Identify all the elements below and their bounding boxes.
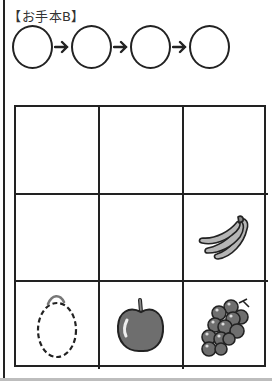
grid-cell-r2c2[interactable] [100,195,184,282]
grid-cell-r2c3[interactable] [184,195,268,282]
sequence-circle-2[interactable] [71,25,112,69]
grid-cell-r2c1[interactable] [16,195,100,282]
arrow-right-icon [54,39,70,55]
sequence-row [12,24,272,74]
arrow-right-icon [172,39,188,55]
page-title: 【お手本B】 [8,6,85,25]
grid-cell-r3c2[interactable] [100,282,184,369]
apple-icon [115,296,167,356]
grapes-icon [195,295,257,357]
sequence-circle-1[interactable] [12,25,53,69]
sequence-circle-3[interactable] [130,25,171,69]
banana-icon [196,213,256,263]
arrow-right-icon [113,39,129,55]
sequence-circle-4[interactable] [189,25,230,69]
grid-cell-r1c3[interactable] [184,107,268,195]
left-margin-rule [3,0,5,378]
grid-cell-r1c1[interactable] [16,107,100,195]
grid-cell-r3c1[interactable] [16,282,100,369]
grid-cell-r3c3[interactable] [184,282,268,369]
grid-cell-r1c2[interactable] [100,107,184,195]
lemon-outline-dashed-icon [32,290,82,362]
fruit-grid [14,105,266,367]
